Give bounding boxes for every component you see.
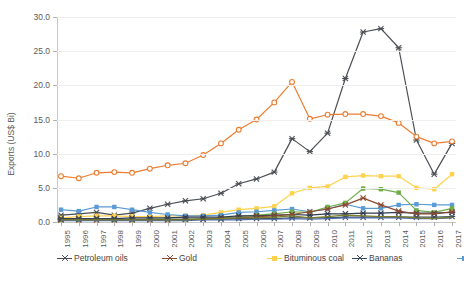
data-point-marker [182,198,188,203]
x-tick-label: 1997 [100,230,108,248]
x-tick-mark [399,222,400,226]
y-tick-mark [53,17,57,18]
y-tick-mark [53,51,57,52]
x-tick-mark [221,222,222,226]
x-tick-mark [114,222,115,226]
x-tick-label: 2012 [366,230,374,248]
gridline [57,17,456,18]
data-point-marker [290,80,295,85]
y-tick-label: 10.0 [33,149,50,158]
data-point-marker [414,134,419,139]
x-tick-mark [168,222,169,226]
legend-label: Petroleum oils [74,254,128,263]
x-tick-mark [274,222,275,226]
data-point-marker [219,141,224,146]
data-point-marker [112,205,116,209]
data-point-marker [272,100,277,105]
x-tick-label: 2002 [188,230,196,248]
legend-item-petroleum-oils[interactable]: Petroleum oils [57,252,162,265]
data-point-marker [396,203,400,207]
x-tick-mark [416,222,417,226]
data-point-marker [450,172,454,176]
legend-item-gold[interactable]: Gold [162,252,267,265]
data-point-marker [218,191,224,196]
x-tick-label: 2003 [206,230,214,248]
x-tick-label: 2007 [277,230,285,248]
y-tick-mark [53,85,57,86]
x-tick-label: 2010 [331,230,339,248]
line-chart: Exports (US$ Bi) 0.05.010.015.020.025.03… [0,0,464,288]
y-tick-mark [53,222,57,223]
y-tick-label: 25.0 [33,47,50,56]
data-point-marker [148,210,152,214]
x-tick-label: 2009 [313,230,321,248]
y-tick-label: 5.0 [38,184,50,193]
legend-label: Bituminous coal [284,254,344,263]
data-point-marker [272,204,276,208]
x-tick-label: 2013 [384,230,392,248]
legend-item-coffee[interactable]: Coffee [457,252,464,265]
data-point-marker [432,203,436,207]
x-tick-mark [328,222,329,226]
data-point-marker [59,208,63,212]
data-point-marker [290,191,294,195]
y-tick-mark [53,120,57,121]
data-point-marker [343,112,348,117]
legend-item-bituminous-coal[interactable]: Bituminous coal [267,252,352,265]
data-point-marker [59,174,64,179]
data-point-marker [236,181,242,186]
y-tick-label: 15.0 [33,115,50,124]
data-point-marker [431,172,437,177]
data-point-marker [130,170,135,175]
x-tick-label: 2001 [171,230,179,248]
gridline [57,154,456,155]
data-point-marker [378,26,384,31]
x-tick-mark [434,222,435,226]
x-tick-label: 2016 [437,230,445,248]
data-point-marker [379,114,384,119]
data-point-marker [360,29,366,34]
data-point-marker [271,170,277,175]
data-point-marker [289,136,295,141]
data-point-marker [450,139,455,144]
x-tick-mark [97,222,98,226]
x-tick-mark [257,222,258,226]
x-tick-mark [452,222,453,226]
data-point-marker [236,127,241,132]
x-tick-label: 2000 [153,230,161,248]
gridline [57,188,456,189]
data-point-marker [147,166,152,171]
x-tick-mark [292,222,293,226]
plot-area: 0.05.010.015.020.025.030.019951996199719… [57,17,456,222]
data-point-marker [183,161,188,166]
x-tick-mark [150,222,151,226]
x-tick-label: 1998 [117,230,125,248]
x-tick-mark [79,222,80,226]
x-tick-label: 2015 [419,230,427,248]
x-tick-mark [381,222,382,226]
data-point-marker [165,163,170,168]
legend-swatch-icon [267,254,282,263]
legend-swatch-icon [352,254,367,263]
data-point-marker [94,170,99,175]
x-tick-mark [185,222,186,226]
x-tick-mark [132,222,133,226]
data-point-marker [253,176,259,181]
x-tick-label: 2005 [242,230,250,248]
legend-item-bananas[interactable]: Bananas [352,252,457,265]
x-tick-label: 1996 [82,230,90,248]
x-tick-mark [345,222,346,226]
y-tick-label: 20.0 [33,81,50,90]
data-point-marker [396,174,400,178]
y-tick-label: 30.0 [33,13,50,22]
x-tick-label: 2006 [260,230,268,248]
x-tick-mark [310,222,311,226]
x-tick-mark [203,222,204,226]
x-tick-label: 2008 [295,230,303,248]
x-tick-label: 2011 [348,230,356,247]
x-tick-label: 2017 [455,230,463,248]
data-point-marker [361,206,365,210]
legend-label: Bananas [369,254,403,263]
chart-legend: Petroleum oilsGoldBituminous coalBananas… [57,252,457,265]
y-tick-label: 0.0 [38,218,50,227]
